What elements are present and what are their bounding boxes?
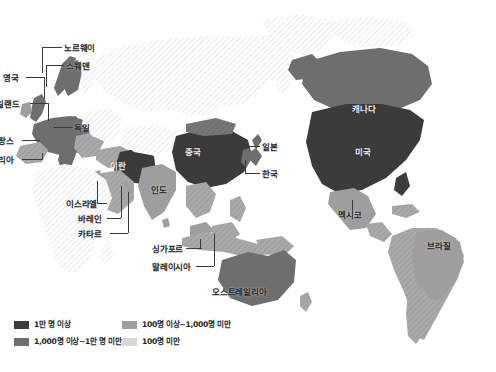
world-map-svg: [0, 0, 496, 372]
country-label-australia: 오스트레일리아: [212, 288, 267, 297]
leader-ireland-h: [30, 103, 48, 104]
legend-label-2: 100명 이상~1,000명 미만: [142, 321, 230, 329]
leader-italy-v: [42, 153, 43, 160]
leader-israel-h: [97, 203, 107, 204]
legend-swatch-tier1: [14, 321, 29, 329]
country-label-india: 인도: [151, 186, 167, 195]
leader-malaysia-h: [196, 266, 214, 267]
country-label-germany: 독일: [74, 124, 90, 133]
country-label-sweden: 스웨덴: [66, 62, 89, 71]
map-stage: [0, 0, 496, 372]
leader-japan-h: [245, 146, 260, 147]
legend-item-2: 100명 이상~1,000명 미만: [122, 318, 250, 332]
legend-swatch-tier3: [122, 321, 137, 329]
leader-sweden-h: [46, 65, 64, 66]
legend-swatch-tier4: [122, 338, 137, 346]
leader-korea-h: [245, 173, 260, 174]
leader-bahrain-h: [107, 218, 121, 219]
leader-qatar-h: [110, 233, 128, 234]
country-label-china: 중국: [185, 148, 201, 157]
leader-malaysia-v: [214, 234, 215, 266]
leader-norway-v: [42, 47, 43, 73]
country-label-singapore: 싱가포르: [152, 245, 183, 254]
legend-label-4: 100명 미만: [142, 338, 179, 346]
leader-korea-v: [245, 160, 246, 173]
legend-item-4: 100명 미만: [122, 335, 250, 349]
leader-bahrain-v: [121, 186, 122, 218]
country-label-canada: 캐나다: [352, 105, 375, 114]
country-label-ireland: 일랜드: [0, 100, 19, 109]
leader-qatar-v: [128, 192, 129, 233]
country-label-bahrain: 바레인: [78, 215, 101, 224]
legend-label-1: 1만 명 이상: [34, 321, 70, 329]
leader-uk-v: [44, 77, 45, 99]
country-label-italy: 리아: [0, 156, 14, 165]
legend-label-3: 1,000명 이상~1만 명 미만: [34, 338, 122, 346]
world-map-figure: 노르웨이스웨덴영국일랜드독일랑스리아이란중국일본한국인도이스라엘바레인카타르싱가…: [0, 0, 496, 372]
leader-ireland-v: [48, 103, 49, 121]
legend-item-1: 1만 명 이상: [14, 318, 118, 332]
country-label-mexico: 멕시코: [338, 211, 361, 220]
legend-item-3: 1,000명 이상~1만 명 미만: [14, 335, 118, 349]
leader-italy-h: [22, 159, 42, 160]
country-label-japan: 일본: [262, 143, 278, 152]
leader-norway-h: [42, 47, 62, 48]
country-label-qatar: 카타르: [78, 230, 101, 239]
country-label-france: 랑스: [0, 137, 14, 146]
country-label-usa: 미국: [355, 148, 371, 157]
leader-singapore-h: [186, 248, 202, 249]
country-label-uk: 영국: [3, 74, 19, 83]
country-label-malaysia: 말레이시아: [152, 263, 191, 272]
leader-germany-h: [54, 127, 73, 128]
leader-france-h: [22, 140, 40, 141]
country-label-korea: 한국: [262, 170, 278, 179]
leader-uk-h: [26, 77, 44, 78]
leader-singapore-v: [200, 239, 201, 248]
legend-swatch-tier2: [14, 338, 29, 346]
leader-sweden-v: [46, 65, 47, 87]
map-legend: 1만 명 이상100명 이상~1,000명 미만1,000명 이상~1만 명 미…: [14, 318, 246, 349]
country-label-israel: 이스라엘: [66, 200, 97, 209]
country-label-brazil: 브라질: [427, 242, 450, 251]
country-label-iran: 이란: [110, 162, 126, 171]
country-label-norway: 노르웨이: [64, 44, 95, 53]
